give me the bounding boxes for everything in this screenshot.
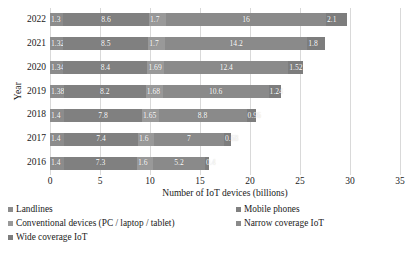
bar-value-label: 1.65	[143, 112, 156, 120]
bar-value-label: 7.3	[96, 159, 106, 167]
legend-item[interactable]: Conventional devices (PC / laptop / tabl…	[8, 219, 236, 228]
bar-segment: 0.68	[224, 133, 231, 146]
bar-value-label: 0.4	[206, 159, 216, 167]
x-tick-label: 35	[385, 177, 409, 187]
bar-value-label: 1.4	[51, 135, 61, 143]
bar-segment: 1.8	[307, 37, 325, 50]
bar-segment: 1.7	[149, 13, 166, 26]
legend-item[interactable]: Narrow coverage IoT	[236, 219, 396, 228]
legend-item-label: Landlines	[16, 205, 53, 214]
bar-value-label: 1.4	[51, 159, 61, 167]
legend-item[interactable]: Mobile phones	[236, 205, 396, 214]
bar-segment: 1.4	[50, 157, 64, 170]
bar-value-label: 5.2	[174, 159, 184, 167]
bar-segment: 0.96	[247, 109, 257, 122]
bar-segment: 1.68	[146, 85, 163, 98]
bar-value-label: 0.68	[225, 135, 238, 143]
bar-segment: 1.65	[142, 109, 159, 122]
legend-swatch-icon	[236, 221, 241, 226]
bar-row: 1.47.81.658.80.96	[50, 109, 256, 122]
x-tick-label: 25	[285, 177, 315, 187]
y-tick-label: 2017	[10, 134, 46, 144]
y-axis-tick-labels: 2022202120202019201820172016	[8, 8, 46, 175]
bar-value-label: 8.4	[101, 64, 111, 72]
bar-value-label: 1.4	[51, 112, 61, 120]
bar-segment: 7.3	[64, 157, 137, 170]
bar-segment: 1.6	[138, 133, 154, 146]
bar-value-label: 1.6	[139, 135, 149, 143]
bar-segment: 12.4	[164, 61, 288, 74]
bar-value-label: 8.5	[101, 40, 111, 48]
bar-value-label: 0.96	[248, 112, 261, 120]
legend-item[interactable]: Landlines	[8, 205, 236, 214]
bar-value-label: 14.2	[230, 40, 243, 48]
bar-segment: 1.6	[137, 157, 153, 170]
legend-swatch-icon	[236, 207, 241, 212]
y-tick-label: 2016	[10, 158, 46, 168]
bar-value-label: 1.24	[270, 88, 283, 96]
bar-segment: 8.8	[159, 109, 247, 122]
bar-value-label: 1.34	[51, 64, 64, 72]
bar-segment: 16	[166, 13, 326, 26]
bar-segment: 1.7	[148, 37, 165, 50]
bar-value-label: 1.7	[149, 40, 159, 48]
bar-segment: 8.4	[63, 61, 147, 74]
gridline-30	[350, 8, 351, 175]
bar-value-label: 1.52	[289, 64, 302, 72]
bar-segment: 1.4	[50, 109, 64, 122]
bar-value-label: 1.8	[308, 40, 318, 48]
bar-row: 1.328.51.714.21.8	[50, 37, 325, 50]
y-tick-label: 2018	[10, 110, 46, 120]
bar-segment: 1.69	[147, 61, 164, 74]
bar-value-label: 1.6	[138, 159, 148, 167]
plot-area: 1.38.61.7162.11.328.51.714.21.81.348.41.…	[50, 8, 400, 175]
legend-item-label: Conventional devices (PC / laptop / tabl…	[16, 219, 175, 228]
bar-segment: 7.4	[64, 133, 138, 146]
bar-value-label: 12.4	[220, 64, 233, 72]
bar-value-label: 7	[187, 135, 191, 143]
x-tick-label: 10	[135, 177, 165, 187]
bar-segment: 1.52	[288, 61, 303, 74]
bar-segment: 1.3	[50, 13, 63, 26]
legend-item[interactable]: Wide coverage IoT	[8, 233, 236, 242]
bar-segment: 8.2	[64, 85, 146, 98]
chart-legend: LandlinesMobile phonesConventional devic…	[8, 203, 403, 245]
legend-item-label: Wide coverage IoT	[16, 233, 87, 242]
x-tick-label: 0	[35, 177, 65, 187]
bar-row: 1.348.41.6912.41.52	[50, 61, 303, 74]
bar-value-label: 7.8	[98, 112, 108, 120]
bar-segment: 1.38	[50, 85, 64, 98]
gridline-35	[400, 8, 401, 175]
bar-row: 1.388.21.6810.61.24	[50, 85, 281, 98]
legend-swatch-icon	[8, 235, 13, 240]
bar-segment: 1.34	[50, 61, 63, 74]
bar-value-label: 1.69	[148, 64, 161, 72]
bar-value-label: 7.4	[96, 135, 106, 143]
y-tick-label: 2021	[10, 39, 46, 49]
bar-row: 1.47.31.65.20.4	[50, 157, 209, 170]
x-tick-label: 30	[335, 177, 365, 187]
x-tick-label: 15	[185, 177, 215, 187]
legend-item-label: Narrow coverage IoT	[244, 219, 324, 228]
bar-value-label: 2.1	[327, 16, 337, 24]
bar-segment: 10.6	[163, 85, 269, 98]
bar-row: 1.47.41.670.68	[50, 133, 231, 146]
legend-row: Wide coverage IoT	[8, 231, 403, 245]
legend-item-label: Mobile phones	[244, 205, 300, 214]
bar-segment: 7.8	[64, 109, 142, 122]
bar-segment: 7	[154, 133, 224, 146]
y-tick-label: 2019	[10, 87, 46, 97]
bar-segment: 2.1	[326, 13, 347, 26]
bar-value-label: 8.6	[101, 16, 111, 24]
x-axis-title: Number of IoT devices (billions)	[50, 189, 400, 199]
bar-segment: 1.4	[50, 133, 64, 146]
bar-row: 1.38.61.7162.1	[50, 13, 347, 26]
bar-value-label: 16	[242, 16, 250, 24]
bar-value-label: 8.2	[100, 88, 110, 96]
bar-segment: 5.2	[153, 157, 205, 170]
y-tick-label: 2022	[10, 15, 46, 25]
bar-segment: 8.6	[63, 13, 149, 26]
x-tick-label: 20	[235, 177, 265, 187]
y-tick-label: 2020	[10, 63, 46, 73]
bar-value-label: 1.3	[51, 16, 61, 24]
